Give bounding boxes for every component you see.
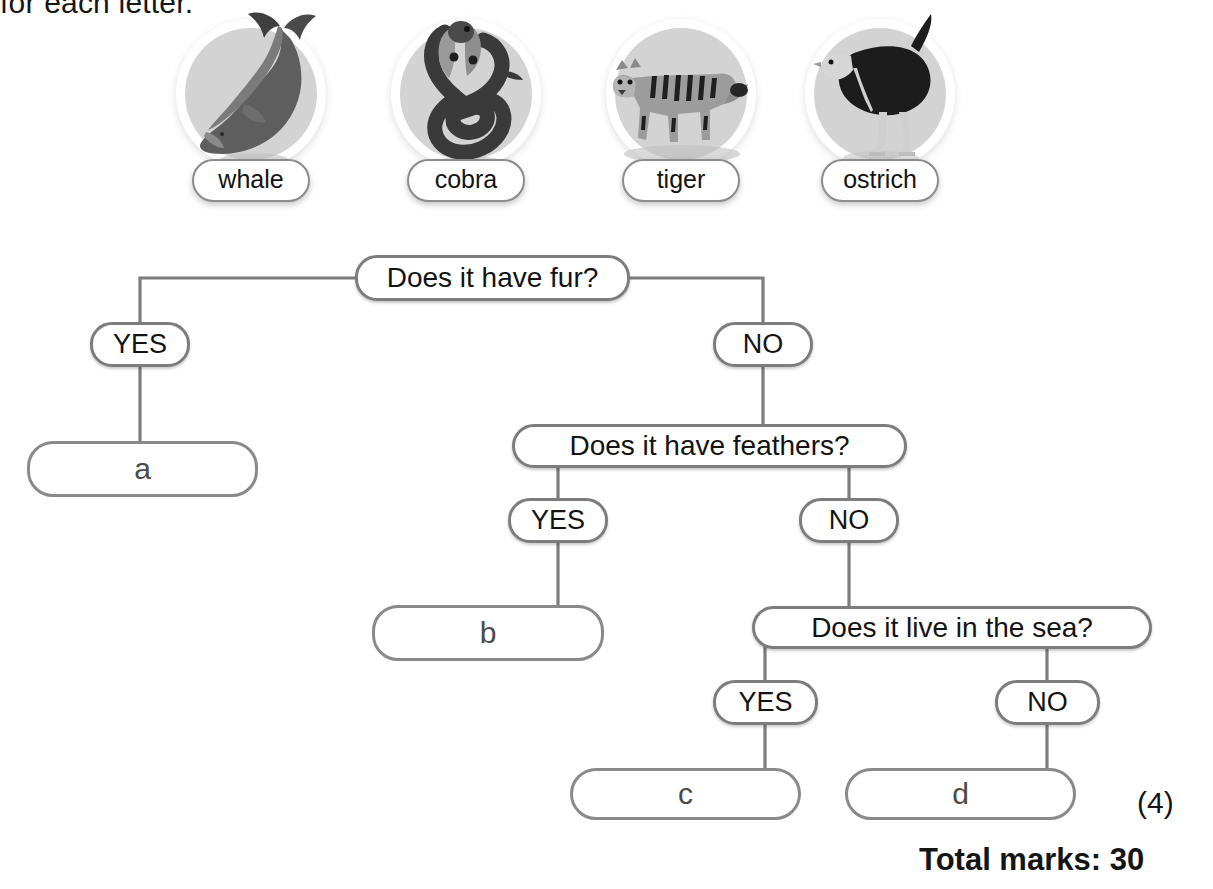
question-marks: (4) (1137, 786, 1174, 820)
worksheet-page: for each letter. whale cobra (0, 0, 1213, 889)
branch-feathers-yes[interactable]: YES (508, 498, 608, 543)
answer-slot-a[interactable]: a (27, 441, 258, 497)
answer-slot-d[interactable]: d (845, 768, 1076, 820)
branch-sea-no[interactable]: NO (995, 680, 1100, 725)
question-node-sea[interactable]: Does it live in the sea? (752, 606, 1152, 649)
question-node-fur[interactable]: Does it have fur? (355, 255, 630, 301)
answer-slot-b[interactable]: b (372, 605, 604, 661)
question-node-feathers[interactable]: Does it have feathers? (512, 424, 907, 468)
total-marks: Total marks: 30 (919, 842, 1144, 878)
branch-fur-no[interactable]: NO (713, 322, 813, 367)
branch-feathers-no[interactable]: NO (799, 498, 899, 543)
branch-fur-yes[interactable]: YES (90, 322, 190, 367)
answer-slot-c[interactable]: c (570, 768, 801, 820)
branch-sea-yes[interactable]: YES (713, 680, 818, 725)
